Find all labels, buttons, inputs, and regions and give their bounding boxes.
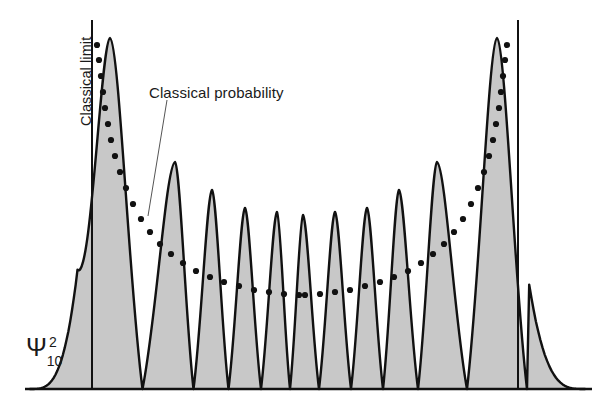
psi-squared-axis-label: Ψ210 (26, 333, 63, 365)
psi-superscript: 2 (49, 334, 57, 350)
classical-limit-label: Classical limit (78, 37, 94, 126)
classical-probability-leader-line (148, 100, 167, 216)
psi-symbol: Ψ (26, 333, 47, 361)
psi-subscript: 10 (47, 353, 63, 369)
classical-probability-label: Classical probability (149, 84, 284, 101)
figure-quantum-oscillator: Classical limit Classical probability Ψ2… (0, 0, 608, 415)
